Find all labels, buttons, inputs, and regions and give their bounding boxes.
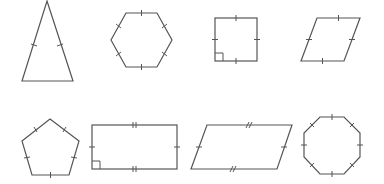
parallelogram bbox=[191, 122, 292, 172]
regular-pentagon bbox=[22, 119, 79, 178]
square bbox=[212, 15, 260, 64]
right-angle-marker bbox=[92, 161, 100, 169]
rectangle bbox=[89, 122, 180, 172]
regular-octagon bbox=[301, 114, 363, 177]
polygon-diagram bbox=[0, 0, 384, 184]
right-angle-marker bbox=[215, 53, 223, 61]
isosceles-triangle bbox=[22, 1, 73, 81]
regular-hexagon bbox=[111, 10, 172, 70]
rhombus bbox=[301, 15, 360, 64]
